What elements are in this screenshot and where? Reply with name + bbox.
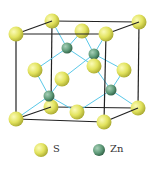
legend-s-label: S	[53, 143, 60, 154]
s-atom	[97, 115, 112, 130]
s-atom	[28, 63, 43, 78]
zn-atom	[106, 85, 117, 96]
zn-atom	[44, 91, 55, 102]
s-atom	[117, 63, 132, 78]
zn-atom	[89, 49, 100, 60]
s-atom	[9, 112, 24, 127]
legend-zn-label: Zn	[110, 143, 123, 154]
s-atom	[9, 27, 24, 42]
s-atom	[75, 24, 90, 39]
s-atom	[70, 105, 85, 120]
legend-zn-swatch	[93, 144, 105, 156]
s-atom	[87, 59, 102, 74]
s-atom	[99, 27, 114, 42]
legend-s-swatch	[34, 143, 48, 157]
zn-atom	[62, 43, 73, 54]
s-atom	[55, 72, 70, 87]
atoms-back	[28, 14, 147, 120]
unit-cell-diagram	[0, 0, 158, 170]
